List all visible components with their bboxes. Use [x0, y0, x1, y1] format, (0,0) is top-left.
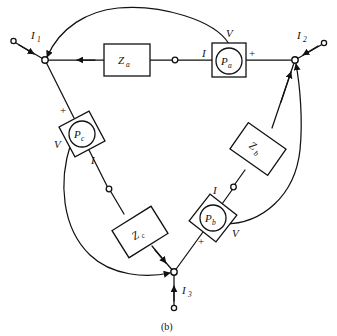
label-pa-voltage: V [226, 27, 234, 39]
inline-terminal-dot-left [106, 186, 112, 192]
label-pb-current: I [212, 184, 218, 196]
terminal-dot-2 [321, 40, 326, 45]
wattmeter-pa-label: P [220, 55, 228, 67]
label-i1: I 1 [30, 29, 41, 44]
wattmeter-pc: P c [59, 111, 105, 157]
circuit-figure: Z a Z b Z c P a [0, 0, 337, 336]
circuit-diagram-svg: Z a Z b Z c P a [0, 0, 337, 336]
label-pc-current: I [90, 154, 96, 166]
junction-node-3 [171, 269, 177, 275]
junction-node-2 [292, 57, 298, 63]
impedance-za: Z a [104, 44, 150, 76]
terminal-dot-3 [171, 305, 176, 310]
terminal-dot-1 [11, 38, 16, 43]
label-pc-polarity: + [60, 104, 66, 116]
wire-right-branch [174, 60, 295, 272]
junction-node-1 [42, 57, 48, 63]
terminal-lead-2 [295, 40, 327, 60]
label-i2: I 2 [296, 29, 307, 44]
wire-terminal-to-zb [235, 170, 245, 184]
inline-terminal-dot-right [231, 184, 237, 190]
terminal-lead-3 [171, 272, 176, 311]
wattmeter-pb: P b [189, 194, 237, 242]
wire-terminal-to-zc [111, 192, 124, 214]
impedance-zc: Z c [112, 206, 168, 258]
arc-voltage-pc [64, 143, 170, 275]
figure-caption: (b) [161, 321, 173, 333]
inline-terminal-dot-top [172, 57, 178, 63]
label-i2-sub: 2 [303, 35, 307, 44]
label-i1-letter: I [30, 29, 36, 41]
wattmeter-pb-label: P [204, 212, 212, 224]
current-arrow-left-branch [152, 246, 166, 263]
current-arrow-i1 [19, 45, 34, 54]
current-arrow-right-branch [281, 72, 291, 102]
wattmeter-pa: P a [212, 43, 246, 77]
label-pb-polarity: + [198, 235, 204, 247]
label-i3-letter: I [181, 284, 187, 296]
label-i3: I 3 [181, 284, 192, 299]
label-i1-sub: 1 [37, 35, 41, 44]
arc-pc-to-node3 [64, 143, 170, 275]
label-pc-voltage: V [54, 138, 62, 150]
label-pa-current: I [201, 47, 207, 59]
wire-pb-to-terminal [222, 190, 232, 204]
label-i3-sub: 3 [187, 290, 192, 299]
label-i2-letter: I [296, 29, 302, 41]
wattmeter-pc-label: P [73, 128, 81, 140]
impedance-za-label: Z [118, 54, 125, 66]
label-pb-voltage: V [232, 227, 240, 239]
current-arrow-i2 [303, 46, 318, 55]
impedance-za-sub: a [126, 60, 130, 69]
impedance-zb: Z b [230, 123, 286, 176]
wattmeter-pa-sub: a [228, 61, 232, 70]
label-pa-polarity: + [249, 47, 255, 59]
wattmeter-pb-sub: b [212, 218, 216, 227]
